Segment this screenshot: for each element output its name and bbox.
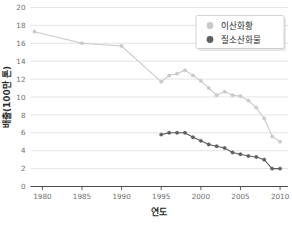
y-tick-label: 14 — [16, 57, 26, 66]
y-tick-label: 12 — [16, 75, 25, 84]
emissions-line-chart: 02468101214161820 1980198519901995200020… — [0, 0, 292, 226]
legend-label-1[interactable]: 이산화황 — [221, 21, 253, 31]
data-point — [167, 131, 170, 134]
data-point — [191, 136, 194, 139]
data-point — [270, 135, 273, 138]
data-point — [247, 99, 250, 102]
x-tick-label: 1995 — [152, 192, 170, 201]
data-point — [215, 145, 218, 148]
x-tick-label: 1985 — [73, 192, 91, 201]
data-point — [223, 90, 226, 93]
x-axis-title: 연도 — [151, 207, 168, 217]
legend[interactable]: 이산화황질소산화물 — [196, 16, 286, 52]
data-point — [191, 74, 194, 77]
data-point — [255, 106, 258, 109]
data-point — [270, 167, 273, 170]
data-point — [239, 153, 242, 156]
data-point — [183, 131, 186, 134]
data-point — [160, 133, 163, 136]
data-point — [199, 79, 202, 82]
x-tick-label: 1990 — [112, 192, 131, 201]
y-tick-label: 8 — [21, 111, 26, 120]
data-point — [223, 146, 226, 149]
x-axis-ticks: 1980198519901995200020052010 — [33, 187, 289, 201]
data-point — [255, 155, 258, 158]
data-point — [231, 94, 234, 97]
data-point — [175, 131, 178, 134]
legend-marker-2 — [207, 36, 214, 43]
data-point — [207, 86, 210, 89]
chart-figure: 02468101214161820 1980198519901995200020… — [0, 0, 292, 226]
y-tick-label: 10 — [16, 93, 26, 102]
data-point — [120, 44, 123, 47]
data-point — [247, 154, 250, 157]
data-point — [239, 94, 242, 97]
data-point — [199, 139, 202, 142]
y-tick-label: 2 — [21, 164, 26, 173]
data-point — [215, 94, 218, 97]
y-tick-label: 4 — [21, 146, 26, 155]
x-tick-label: 2005 — [231, 192, 249, 201]
data-point — [167, 74, 170, 77]
data-point — [231, 151, 234, 154]
x-tick-label: 2000 — [192, 192, 211, 201]
data-point — [160, 80, 163, 83]
data-point — [278, 140, 281, 143]
data-point — [33, 30, 36, 33]
series-group — [33, 30, 282, 170]
y-axis-title: 배출(100만 톤) — [1, 66, 12, 128]
legend-label-2[interactable]: 질소산화물 — [221, 34, 261, 45]
data-point — [207, 143, 210, 146]
data-point — [263, 117, 266, 120]
y-axis-ticks: 02468101214161820 — [16, 3, 26, 191]
y-tick-label: 16 — [16, 39, 26, 48]
y-tick-label: 6 — [21, 128, 26, 137]
y-tick-label: 20 — [16, 3, 26, 12]
data-point — [183, 68, 186, 71]
x-tick-label: 2010 — [271, 192, 290, 201]
data-point — [263, 158, 266, 161]
y-tick-label: 0 — [21, 182, 26, 191]
x-tick-label: 1980 — [33, 192, 52, 201]
data-point — [278, 167, 281, 170]
data-point — [175, 72, 178, 75]
y-tick-label: 18 — [16, 21, 26, 30]
legend-marker-1 — [207, 22, 214, 29]
data-point — [80, 42, 83, 45]
